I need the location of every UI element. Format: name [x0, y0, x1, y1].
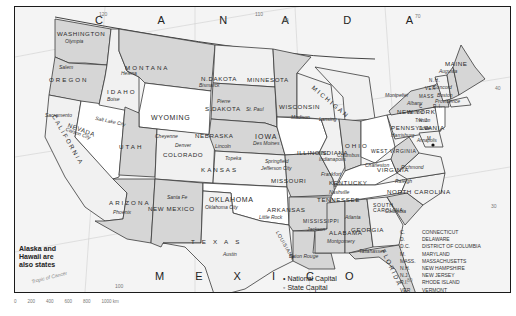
capital-label: Columbus — [337, 153, 360, 158]
abbr-name: DELAWARE — [422, 236, 450, 243]
state-label: MINNESOTA — [247, 77, 289, 83]
state-label: ARIZONA — [109, 200, 151, 206]
longitude-tick: 110 — [255, 11, 263, 17]
abbr-row: D.DELAWARE — [400, 236, 481, 243]
state-label: IDAHO — [107, 89, 137, 95]
capital-label: Lincoln — [215, 144, 231, 149]
state-label: R.I. — [433, 105, 442, 110]
scale-tick: 200 — [28, 299, 36, 304]
scale-tick: 400 — [46, 299, 54, 304]
capital-label: Olympia — [65, 39, 83, 44]
abbr-key: D. — [400, 236, 422, 243]
abbr-row: C.CONNECTICUT — [400, 229, 481, 236]
state-label: GEORGIA — [351, 227, 384, 233]
country-label-canada: C A N A D A — [95, 15, 439, 26]
capital-label: Madison — [291, 115, 310, 120]
legend-national-capital: • National Capital — [283, 275, 337, 284]
capital-legend: • National Capital ◦ State Capital — [283, 275, 337, 292]
capital-label: Helena — [121, 71, 137, 76]
state-label: NORTH CAROLINA — [387, 189, 451, 195]
capital-label: Springfield — [265, 159, 289, 164]
abbr-name: NEW HAMPSHIRE — [422, 265, 465, 272]
scale-tick: 0 — [14, 299, 17, 304]
abbr-name: NEW JERSEY — [422, 272, 455, 279]
state-label: COLORADO — [163, 152, 203, 158]
capital-label: Montpelier — [385, 93, 408, 98]
abbr-name: RHODE ISLAND — [422, 279, 460, 286]
map-frame: C A N A D A M E X I C O WASHINGTON Olymp… — [14, 6, 511, 293]
abbr-row: MASS.MASSACHUSETTS — [400, 258, 481, 265]
capital-label: Richmond — [401, 165, 424, 170]
capital-label: Raleigh — [395, 179, 412, 184]
capital-label: Providence — [435, 99, 460, 104]
state-label: WYOMING — [151, 114, 190, 121]
note-line: Hawaii are — [19, 253, 56, 261]
note-line: Alaska and — [19, 245, 56, 253]
capital-label: Baton Rouge — [289, 254, 318, 259]
abbr-key: VER — [400, 287, 422, 293]
state-label: MAINE — [445, 61, 468, 67]
state-label: UTAH — [119, 144, 143, 150]
capital-label: Trenton — [415, 119, 430, 124]
capital-label: Jefferson City — [261, 166, 292, 171]
capital-label: Frankfort — [321, 172, 341, 177]
longitude-tick: 70 — [415, 13, 421, 19]
abbr-row: D.C.DISTRICT OF COLUMBIA — [400, 243, 481, 250]
state-label: NEBRASKA — [195, 133, 234, 139]
capital-label: Des Moines — [253, 141, 279, 146]
capital-label: Sacramento — [45, 113, 72, 118]
capital-label: Salem — [59, 65, 73, 70]
state-label: OKLAHOMA — [209, 196, 253, 203]
scale-tick: 600 — [65, 299, 73, 304]
capital-label: Cheyenne — [155, 134, 178, 139]
capital-label: Little Rock — [259, 215, 282, 220]
capital-label: Annapolis — [417, 139, 437, 144]
capital-label: Denver — [175, 143, 191, 148]
capital-label: Lansing — [319, 117, 337, 122]
capital-label: Concord — [433, 85, 452, 90]
state-label: IOWA — [255, 133, 277, 140]
scale-tick: 1000 km — [102, 299, 119, 304]
capital-label: Tallahassee — [359, 249, 386, 254]
state-label: MASS — [419, 95, 434, 100]
state-label: TENNESSEE — [317, 197, 360, 203]
abbr-name: VERMONT — [422, 287, 447, 293]
capital-label: Austin — [223, 252, 237, 257]
capital-label: Phoenix — [113, 210, 131, 215]
capital-label: Dover — [419, 127, 431, 132]
state-label: OREGON — [49, 77, 89, 83]
capital-label: Atlanta — [345, 215, 361, 220]
abbr-key: C. — [400, 229, 422, 236]
abbr-row: VERVERMONT — [400, 287, 481, 293]
state-label: MISSISSIPPI — [303, 219, 339, 224]
abbr-key: N.H. — [400, 265, 422, 272]
abbr-key: MASS. — [400, 258, 422, 265]
scale-tick: 800 — [83, 299, 91, 304]
abbr-row: M.MARYLAND — [400, 251, 481, 258]
alaska-hawaii-note: Alaska and Hawaii are also states — [19, 245, 56, 269]
longitude-tick: 100 — [115, 283, 123, 289]
state-label: WISCONSIN — [279, 104, 320, 110]
capital-label: Harrisburg — [391, 133, 414, 138]
national-capital-dot — [431, 143, 434, 146]
abbr-key: D.C. — [400, 243, 422, 250]
capital-label: Boise — [107, 97, 120, 102]
capital-label: Bismarck — [199, 83, 220, 88]
state-label: MISSOURI — [271, 178, 306, 184]
capital-label: Montgomery — [327, 239, 355, 244]
longitude-tick: 90 — [283, 17, 289, 23]
capital-label: Oklahoma City — [205, 205, 238, 210]
state-label: S.DAKOTA — [205, 106, 241, 112]
note-line: also states — [19, 261, 56, 269]
capital-label: Charleston — [365, 163, 389, 168]
abbr-name: MARYLAND — [422, 251, 450, 258]
capital-label: Jackson — [307, 227, 325, 232]
state-label: N.H. — [429, 79, 440, 84]
capital-label: Augusta — [439, 69, 457, 74]
capital-label: Topeka — [225, 156, 241, 161]
state-label: ARKANSAS — [267, 207, 306, 213]
scale-bar: 0 200 400 600 800 1000 km — [14, 299, 119, 304]
state-label: NEW MEXICO — [148, 206, 195, 212]
legend-state-capital: ◦ State Capital — [283, 284, 337, 293]
state-label: C — [419, 105, 423, 110]
